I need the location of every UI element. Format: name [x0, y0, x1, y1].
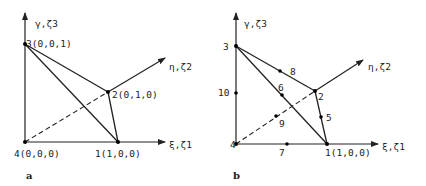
eta-axis-label: η,ζ2 [169, 61, 192, 72]
node-1 [325, 142, 329, 146]
node-6-label: 6 [278, 82, 284, 93]
panel-b-caption: b [233, 170, 240, 181]
edge-3-2 [236, 46, 315, 91]
eta-axis-hidden [25, 92, 108, 142]
panel-b: γ,ζ3 η,ζ2 ξ,ζ1 3 8 6 2 10 9 5 4 7 1(1,0,… [218, 13, 405, 181]
tetrahedron-figure: γ,ζ3 η,ζ2 ξ,ζ1 3(0,0,1) 2(0,1,0) 4(0,0,0… [0, 0, 426, 186]
vertex-2-label: 2(0,1,0) [112, 89, 158, 100]
panel-a: γ,ζ3 η,ζ2 ξ,ζ1 3(0,0,1) 2(0,1,0) 4(0,0,0… [14, 13, 192, 181]
node-6 [280, 93, 284, 97]
node-10 [234, 91, 238, 95]
node-7 [285, 142, 289, 146]
vertex-1-label: 1(1,0,0) [95, 148, 141, 159]
node-5 [319, 115, 323, 119]
eta-axis-label: η,ζ2 [368, 61, 391, 72]
vertex-1 [116, 140, 120, 144]
node-2 [313, 89, 317, 93]
gamma-axis-label: γ,ζ3 [244, 18, 267, 29]
vertex-4 [23, 140, 27, 144]
node-5-label: 5 [326, 112, 332, 123]
eta-axis [315, 60, 363, 91]
edge-3-2 [25, 44, 108, 92]
node-9 [274, 114, 278, 118]
edge-3-1 [25, 44, 118, 142]
node-3 [234, 44, 238, 48]
node-10-label: 10 [218, 87, 230, 98]
node-1-label: 1(1,0,0) [325, 147, 371, 158]
node-3-label: 3 [223, 41, 229, 52]
node-8 [278, 69, 282, 73]
node-4-label: 4 [230, 139, 236, 150]
eta-axis [108, 58, 165, 92]
vertex-2 [106, 90, 110, 94]
node-7-label: 7 [279, 147, 285, 158]
node-2-label: 2 [318, 91, 324, 102]
xi-axis-label: ξ,ζ1 [169, 139, 192, 150]
vertex-4-label: 4(0,0,0) [14, 148, 60, 159]
node-8-label: 8 [290, 66, 296, 77]
gamma-axis-label: γ,ζ3 [35, 18, 58, 29]
panel-a-caption: a [26, 170, 33, 181]
node-9-label: 9 [279, 118, 285, 129]
xi-axis-label: ξ,ζ1 [382, 141, 405, 152]
vertex-3-label: 3(0,0,1) [26, 38, 72, 49]
